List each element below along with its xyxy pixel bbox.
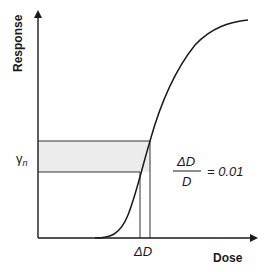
gamma-label: γn	[16, 151, 28, 168]
dose-response-diagram: Response Dose γn ΔD ΔD D = 0.01	[0, 0, 270, 272]
gamma-subscript: n	[23, 158, 28, 168]
x-axis-label: Dose	[213, 251, 243, 265]
formula-denominator: D	[182, 174, 191, 189]
y-axis-label: Response	[11, 14, 25, 72]
dose-response-curve	[95, 20, 248, 238]
formula-rhs: = 0.01	[207, 164, 244, 179]
formula-numerator: ΔD	[176, 154, 195, 169]
delta-d-label: ΔD	[133, 244, 152, 259]
response-band-shade	[38, 141, 150, 172]
